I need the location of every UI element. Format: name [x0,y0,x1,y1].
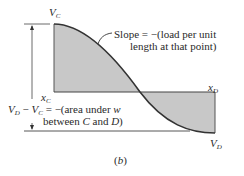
slope-leader-line [98,33,112,44]
xd-label: xD [208,81,218,97]
vd-label: VD [210,137,222,153]
area-annotation-line2: between C and D) [43,115,123,127]
arrow-up-icon [30,25,34,30]
slope-annotation-line2: length at that point) [130,40,216,52]
vc-label: VC [49,6,60,22]
slope-annotation-line1: Slope = −(load per unit [114,28,216,40]
figure-caption: (b) [114,154,127,166]
negative-shear-area [140,92,215,133]
arrow-down-icon [30,125,34,130]
